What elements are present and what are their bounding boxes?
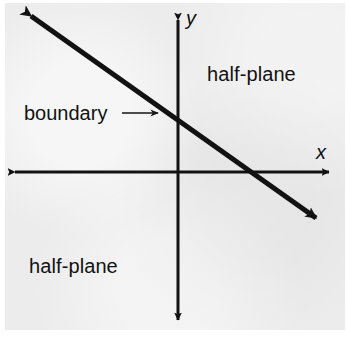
upper-half-plane-label: half-plane [207, 64, 296, 84]
half-plane-diagram: y x half-plane half-plane boundary [0, 0, 347, 343]
boundary-label: boundary [24, 103, 107, 123]
lower-half-plane-label: half-plane [29, 256, 118, 276]
coordinate-plane-svg [0, 0, 347, 343]
x-axis-label: x [316, 142, 326, 162]
y-axis-label: y [186, 8, 196, 28]
